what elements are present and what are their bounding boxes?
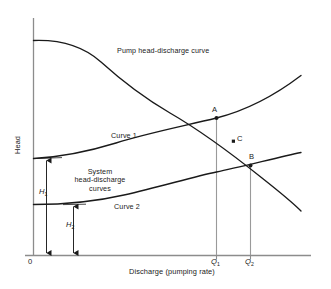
curve-1-label: Curve 1: [111, 132, 137, 140]
q2-subscript: 2: [251, 261, 254, 267]
point-a-marker: [215, 116, 219, 120]
curve-2-label: Curve 2: [114, 203, 140, 211]
point-b-marker: [249, 164, 253, 168]
dimension-label-h1: H1: [39, 188, 48, 197]
x-axis-tick-label-q1: Q1: [211, 258, 220, 267]
point-label-a: A: [212, 106, 217, 115]
point-label-b: B: [249, 153, 254, 162]
system-curves-label: System head-discharge curves: [55, 168, 145, 193]
x-axis-title: Discharge (pumping rate): [102, 268, 242, 277]
y-axis-title: Head: [14, 136, 23, 154]
h1-main: H: [39, 187, 45, 196]
dimension-label-h2: H2: [66, 221, 75, 230]
point-label-c: C: [237, 135, 243, 144]
q1-subscript: 1: [217, 261, 220, 267]
pump-curve-label: Pump head-discharge curve: [117, 47, 209, 55]
h1-subscript: 1: [45, 191, 48, 197]
x-axis-origin-label: 0: [28, 258, 32, 267]
marked-points-group: [215, 116, 253, 168]
pump-system-curve-figure: Head Discharge (pumping rate) 0 Q1 Q2 Pu…: [0, 0, 331, 289]
point-c-marker: [232, 140, 235, 143]
droplines-group: [217, 118, 251, 255]
h2-subscript: 2: [72, 224, 75, 230]
system-curve-1: [34, 76, 302, 159]
h2-main: H: [66, 220, 72, 229]
chart-canvas: [0, 0, 331, 289]
x-axis-tick-label-q2: Q2: [245, 258, 254, 267]
system-curves-label-line3: curves: [55, 185, 145, 193]
